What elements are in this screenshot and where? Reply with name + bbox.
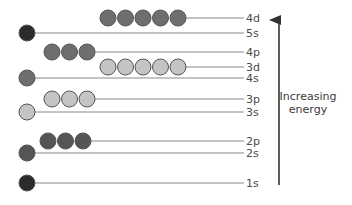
orbital-3s-1 bbox=[19, 104, 35, 120]
orbital-3d-2 bbox=[118, 59, 134, 75]
orbital-4d-1 bbox=[100, 10, 116, 26]
orbital-4d-5 bbox=[170, 10, 186, 26]
orbital-4p-3 bbox=[79, 44, 95, 60]
level-label-2p: 2p bbox=[246, 135, 260, 148]
orbital-5s-1 bbox=[19, 25, 35, 41]
orbital-3p-3 bbox=[79, 91, 95, 107]
orbital-3d-3 bbox=[135, 59, 151, 75]
energy-levels: 1s2s2p3s3p4s3d4p5s4d bbox=[19, 10, 260, 191]
level-label-1s: 1s bbox=[246, 177, 259, 190]
orbital-4d-4 bbox=[153, 10, 169, 26]
level-2s: 2s bbox=[19, 145, 259, 161]
level-1s: 1s bbox=[19, 175, 259, 191]
orbital-2p-3 bbox=[75, 133, 91, 149]
level-3p: 3p bbox=[44, 91, 260, 107]
orbital-2p-2 bbox=[58, 133, 74, 149]
level-label-3p: 3p bbox=[246, 93, 260, 106]
level-5s: 5s bbox=[19, 25, 259, 41]
orbital-4p-2 bbox=[62, 44, 78, 60]
orbital-2p-1 bbox=[40, 133, 56, 149]
axis-label-line1: Increasing bbox=[280, 90, 337, 103]
orbital-4d-2 bbox=[118, 10, 134, 26]
level-label-4p: 4p bbox=[246, 46, 260, 59]
orbital-4s-1 bbox=[19, 70, 35, 86]
level-3d: 3d bbox=[100, 59, 260, 75]
level-4d: 4d bbox=[100, 10, 260, 26]
orbital-energy-diagram: 1s2s2p3s3p4s3d4p5s4d Increasing energy bbox=[0, 0, 352, 205]
level-4p: 4p bbox=[44, 44, 260, 60]
orbital-1s-1 bbox=[19, 175, 35, 191]
orbital-4d-3 bbox=[135, 10, 151, 26]
orbital-3d-4 bbox=[153, 59, 169, 75]
orbital-3p-2 bbox=[62, 91, 78, 107]
level-label-4d: 4d bbox=[246, 12, 260, 25]
level-label-3d: 3d bbox=[246, 61, 260, 74]
energy-axis: Increasing energy bbox=[279, 20, 336, 185]
level-label-2s: 2s bbox=[246, 147, 259, 160]
orbital-4p-1 bbox=[44, 44, 60, 60]
level-label-5s: 5s bbox=[246, 27, 259, 40]
orbital-3d-1 bbox=[100, 59, 116, 75]
axis-label-line2: energy bbox=[289, 103, 328, 116]
orbital-3p-1 bbox=[44, 91, 60, 107]
level-2p: 2p bbox=[40, 133, 260, 149]
orbital-2s-1 bbox=[19, 145, 35, 161]
orbital-3d-5 bbox=[170, 59, 186, 75]
level-label-3s: 3s bbox=[246, 106, 259, 119]
